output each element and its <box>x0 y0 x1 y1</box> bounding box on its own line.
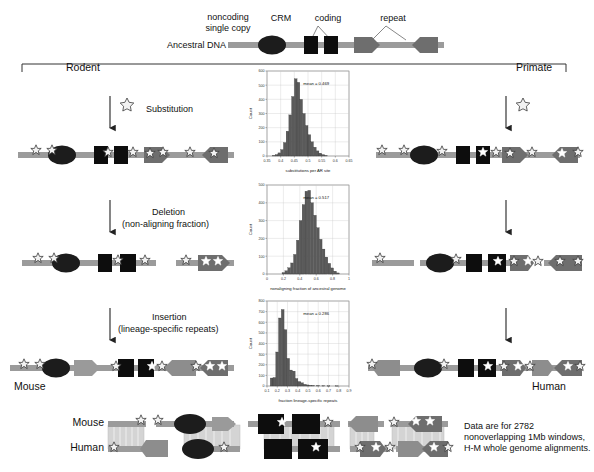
figure-caption: Data are for 2782 nonoverlapping 1Mb win… <box>464 421 594 454</box>
row-primate-substitution <box>376 145 583 165</box>
svg-text:400: 400 <box>259 98 265 102</box>
svg-text:fraction lineage-specific repe: fraction lineage-specific repeats <box>279 398 338 403</box>
species-human-label: Human <box>532 381 566 392</box>
svg-text:0.4: 0.4 <box>297 277 302 281</box>
svg-text:mean = 0.469: mean = 0.469 <box>303 81 329 86</box>
alignment-mouse-label: Mouse <box>42 417 104 428</box>
row-primate-deletion <box>372 253 583 273</box>
svg-text:0.4: 0.4 <box>278 159 283 163</box>
svg-text:200: 200 <box>259 237 265 241</box>
svg-text:500: 500 <box>259 183 265 187</box>
svg-text:100: 100 <box>259 140 265 144</box>
row-rodent-substitution <box>18 145 234 165</box>
svg-text:0: 0 <box>263 154 265 158</box>
svg-text:0.65: 0.65 <box>346 159 353 163</box>
alignment-row-human <box>108 439 453 459</box>
svg-text:200: 200 <box>259 126 265 130</box>
svg-text:Count: Count <box>248 107 253 119</box>
svg-text:300: 300 <box>259 353 265 357</box>
svg-text:400: 400 <box>259 201 265 205</box>
species-mouse-label: Mouse <box>14 381 46 392</box>
svg-text:300: 300 <box>259 112 265 116</box>
svg-text:0.2: 0.2 <box>275 389 280 393</box>
svg-text:Count: Count <box>248 337 253 349</box>
svg-text:0.8: 0.8 <box>336 389 341 393</box>
svg-text:100: 100 <box>259 374 265 378</box>
svg-text:mean = 0.517: mean = 0.517 <box>303 195 329 200</box>
row-rodent-deletion <box>22 253 234 273</box>
svg-text:0: 0 <box>266 277 268 281</box>
svg-text:0: 0 <box>263 272 265 276</box>
svg-text:substitutions per AR site: substitutions per AR site <box>286 168 332 173</box>
svg-text:600: 600 <box>259 321 265 325</box>
svg-text:0.35: 0.35 <box>264 159 271 163</box>
svg-text:500: 500 <box>259 331 265 335</box>
histogram-substitutions: 0.350.40.450.50.550.60.65010020030040050… <box>247 66 353 174</box>
row-mouse-final <box>10 359 234 378</box>
svg-text:0.3: 0.3 <box>285 389 290 393</box>
svg-text:0.7: 0.7 <box>326 389 331 393</box>
svg-text:800: 800 <box>259 299 265 303</box>
svg-text:0.4: 0.4 <box>295 389 300 393</box>
alignment-human-label: Human <box>42 442 104 453</box>
svg-text:0: 0 <box>263 384 265 388</box>
svg-text:0.9: 0.9 <box>347 389 352 393</box>
svg-text:600: 600 <box>259 69 265 73</box>
svg-text:0.6: 0.6 <box>316 389 321 393</box>
svg-text:0.45: 0.45 <box>291 159 298 163</box>
svg-text:0.8: 0.8 <box>330 277 335 281</box>
alignment-diagram <box>108 414 453 459</box>
svg-text:0.5: 0.5 <box>306 389 311 393</box>
svg-text:0.55: 0.55 <box>318 159 325 163</box>
svg-text:0.1: 0.1 <box>265 389 270 393</box>
svg-text:1: 1 <box>348 277 350 281</box>
svg-text:0.2: 0.2 <box>281 277 286 281</box>
evolution-figure: noncoding single copy CRM coding repeat … <box>0 0 594 472</box>
svg-text:100: 100 <box>259 255 265 259</box>
svg-text:500: 500 <box>259 84 265 88</box>
svg-text:0.6: 0.6 <box>314 277 319 281</box>
svg-text:Count: Count <box>248 223 253 235</box>
svg-text:400: 400 <box>259 342 265 346</box>
svg-text:200: 200 <box>259 363 265 367</box>
svg-text:0.5: 0.5 <box>306 159 311 163</box>
svg-text:700: 700 <box>259 310 265 314</box>
histogram-nonaligning: 00.20.40.60.810100200300400500nonalignin… <box>247 180 353 292</box>
svg-text:mean = 0.286: mean = 0.286 <box>303 311 329 316</box>
svg-text:300: 300 <box>259 219 265 223</box>
row-human-final <box>367 359 585 378</box>
svg-text:nonaligning fraction of ancest: nonaligning fraction of ancestral genome <box>270 286 346 291</box>
svg-text:0.6: 0.6 <box>333 159 338 163</box>
histogram-lineage-repeats: 0.10.20.30.40.50.60.70.80.90100200300400… <box>247 296 353 404</box>
